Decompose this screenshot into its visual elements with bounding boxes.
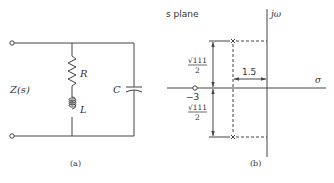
arrow-left-distance: [234, 77, 239, 80]
arrow-down-mid: [211, 82, 214, 87]
caption-a: (a): [70, 159, 81, 168]
bottom-terminal: [10, 134, 14, 138]
distance-label: 1.5: [242, 67, 256, 77]
lower-height-numerator: √111: [188, 103, 207, 112]
upper-height-denominator: 2: [195, 66, 200, 75]
impedance-label: Z(s): [9, 84, 30, 95]
zero-label: −3: [186, 92, 199, 102]
inductor-label: L: [79, 104, 87, 115]
s-plane: [167, 9, 326, 157]
top-terminal: [10, 41, 14, 45]
lower-pole-marker: [231, 135, 235, 139]
dimension-arrowheads: [211, 42, 266, 136]
resistor: [68, 56, 76, 86]
resistor-label: R: [79, 68, 88, 79]
caption-b: (b): [250, 159, 261, 168]
arrow-up-mid: [211, 89, 214, 94]
arrow-right-distance: [261, 77, 266, 80]
diagram-canvas: Z(s) R L C (a): [0, 0, 334, 183]
upper-height-numerator: √111: [188, 56, 207, 65]
imaginary-axis-label: jω: [269, 9, 282, 19]
upper-pole-marker: [231, 39, 235, 43]
zero-marker: [193, 86, 197, 90]
inductor: [69, 97, 76, 109]
lower-height-denominator: 2: [195, 113, 200, 122]
arrow-up-top: [211, 42, 214, 47]
lower-height-fraction: √111 2: [188, 103, 207, 122]
upper-height-fraction: √111 2: [188, 56, 207, 75]
capacitor-label: C: [113, 84, 121, 95]
real-axis-label: σ: [315, 75, 322, 85]
s-plane-title: s plane: [166, 9, 199, 19]
arrow-down-bottom: [211, 131, 214, 136]
